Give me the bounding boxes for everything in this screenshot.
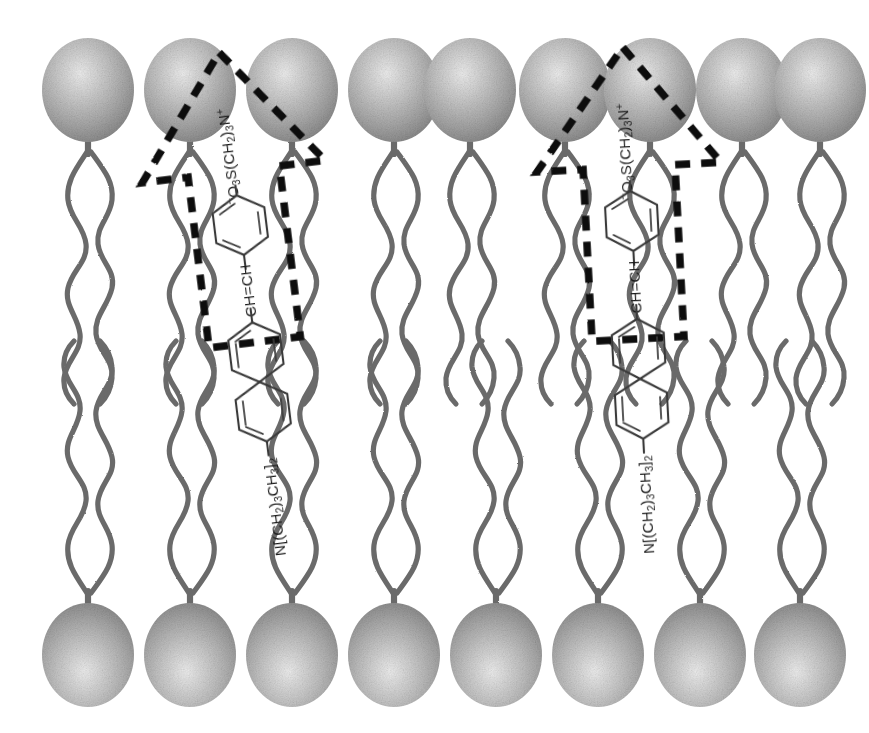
bond-naphthalene-to-amine — [643, 439, 644, 453]
headgroup-sphere — [754, 603, 846, 707]
upper-leaflet-headgroups — [42, 38, 866, 142]
headgroup-sphere — [42, 603, 134, 707]
plus-charge: + — [613, 103, 625, 110]
headgroup-sphere — [450, 603, 542, 707]
headgroup-sphere — [604, 38, 696, 142]
figure-root: −O3S(CH2)3N+ CH=CH N[(CH2)3 — [0, 0, 869, 733]
bilayer-diagram: −O3S(CH2)3N+ CH=CH N[(CH2)3 — [0, 0, 869, 733]
headgroup-sphere — [424, 38, 516, 142]
bond-vinyl-to-naphthalene — [636, 305, 637, 319]
bond-n-to-ring — [630, 181, 631, 191]
headgroup-sphere — [42, 38, 134, 142]
headgroup-sphere — [348, 603, 440, 707]
bond-n-to-ring — [235, 185, 236, 195]
headgroup-sphere — [774, 38, 866, 142]
svg-text:CH=CH: CH=CH — [625, 260, 645, 314]
headgroup-sphere — [654, 603, 746, 707]
headgroup-sphere — [246, 603, 338, 707]
headgroup-sphere — [144, 603, 236, 707]
headgroup-sphere — [552, 603, 644, 707]
vinyl-linker-label-right: CH=CH — [625, 260, 645, 314]
